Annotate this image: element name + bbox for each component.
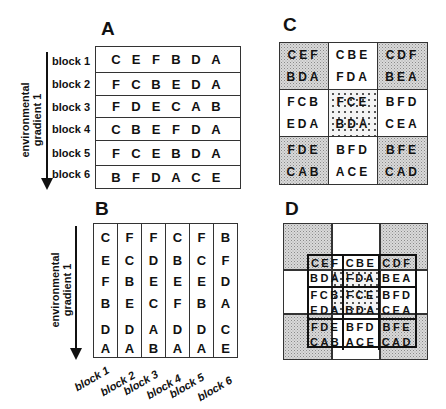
panel-d-cell: FCB EDA <box>309 288 344 320</box>
panel-c-cell: CBE FDA <box>329 43 378 90</box>
plot-cell: C <box>142 296 165 311</box>
panel-c-cell: BFE CAD <box>378 137 427 184</box>
panel-c-cell: BFD ACE <box>329 137 378 184</box>
panel-b-gradient-arrow-shaft <box>75 226 77 350</box>
panel-d-cell: FDE CAB <box>309 320 344 350</box>
panel-d-cell: BFD ACE <box>344 320 379 350</box>
plot-cell: A <box>166 341 189 356</box>
panel-a-row-label: block 5 <box>40 147 90 159</box>
plot-cell: F <box>118 230 141 245</box>
plot-cell: C <box>190 253 213 268</box>
cell-top-row: BFD <box>382 288 412 303</box>
panel-d-letter: D <box>285 198 299 220</box>
cell-top-row: CBE <box>336 44 370 66</box>
panel-a-letter: A <box>101 18 115 40</box>
panel-c-cell: FCB EDA <box>280 90 329 137</box>
panel-b-column: C E F B D A <box>94 224 118 357</box>
plot-cell: B <box>214 230 237 245</box>
panel-a-row: C E F B D A <box>96 47 240 73</box>
panel-d-cell: BFE CAD <box>380 320 415 350</box>
panel-b-column: B F D A C E <box>214 224 237 357</box>
plot-cell: B <box>146 77 166 92</box>
plot-cell: D <box>190 322 213 337</box>
cell-top-row: FCB <box>287 91 321 113</box>
plot-cell: C <box>106 52 126 67</box>
cell-bottom-row: CAB <box>310 335 341 350</box>
panel-a-row: F C E B D A <box>96 141 240 166</box>
plot-cell: B <box>190 296 213 311</box>
panel-a-row-label: block 6 <box>40 168 90 180</box>
plot-cell: E <box>94 253 117 268</box>
plot-cell: F <box>166 122 186 137</box>
cell-top-row: FCE <box>346 288 376 303</box>
plot-cell: C <box>186 170 206 185</box>
cell-bottom-row: CEA <box>385 113 419 135</box>
plot-cell: E <box>190 274 213 289</box>
panel-d-cell: CEF BDA <box>309 256 344 288</box>
cell-top-row: BFE <box>383 320 413 335</box>
plot-cell: F <box>126 170 146 185</box>
plot-cell: F <box>106 146 126 161</box>
cell-top-row: CEF <box>311 256 341 271</box>
panel-c-cell: CDF BEA <box>378 43 427 90</box>
panel-c-letter: C <box>283 14 297 36</box>
plot-cell: E <box>146 146 166 161</box>
plot-cell: E <box>146 122 166 137</box>
plot-cell: D <box>126 99 146 114</box>
plot-cell: B <box>166 146 186 161</box>
cell-bottom-row: BDA <box>287 66 322 88</box>
panel-d-cell: BFD CEA <box>380 288 415 320</box>
plot-cell: B <box>94 296 117 311</box>
panel-b-layout-table: C E F B D A F C B E D A F D E C A B C B … <box>93 223 238 358</box>
panel-c-cell: BFD CEA <box>378 90 427 137</box>
plot-cell: D <box>94 322 117 337</box>
plot-cell: A <box>206 77 226 92</box>
cell-bottom-row: FDA <box>336 66 370 88</box>
plot-cell: C <box>166 99 186 114</box>
cell-bottom-row: CAD <box>385 161 420 183</box>
panel-c-cell: CEF BDA <box>280 43 329 90</box>
plot-cell: A <box>118 341 141 356</box>
cell-top-row: FCB <box>311 288 341 303</box>
cell-bottom-row: CEA <box>382 303 413 318</box>
cell-top-row: CEF <box>288 44 321 66</box>
plot-cell: E <box>118 296 141 311</box>
cell-top-row: BFD <box>386 91 420 113</box>
plot-cell: D <box>214 274 237 289</box>
cell-top-row: FDE <box>288 139 321 161</box>
panel-a-row: F C B E D A <box>96 73 240 96</box>
panel-a-row: F D E C A B <box>96 96 240 118</box>
cell-top-row: BFD <box>346 320 376 335</box>
panel-b-column: F C E B D A <box>190 224 214 357</box>
plot-cell: D <box>142 253 165 268</box>
panel-c-cell-center: FCE BDA <box>329 90 378 137</box>
plot-cell: C <box>106 122 126 137</box>
plot-cell: D <box>186 52 206 67</box>
gradient-label-line2: gradient 1 <box>61 230 73 350</box>
plot-cell: A <box>190 341 213 356</box>
plot-cell: F <box>106 77 126 92</box>
plot-cell: A <box>206 122 226 137</box>
cell-bottom-row: FDA <box>346 271 376 286</box>
plot-cell: E <box>126 52 146 67</box>
panel-c-grid: CEF BDA CBE FDA CDF BEA FCB EDA FCE BDA … <box>279 42 428 185</box>
panel-b-column: C B E F D A <box>166 224 190 357</box>
cell-top-row: CDF <box>386 44 420 66</box>
plot-cell: B <box>142 341 165 356</box>
panel-d-inner-grid: CEF BDA CBE FDA CDF BEA FCB EDA FCE BDA … <box>307 254 417 348</box>
plot-cell: C <box>166 230 189 245</box>
cell-bottom-row: EDA <box>310 303 341 318</box>
panel-a-layout-table: C E F B D A F C B E D A F D E C A B C B … <box>95 46 241 189</box>
plot-cell: D <box>186 146 206 161</box>
plot-cell: B <box>118 274 141 289</box>
plot-cell: C <box>126 77 146 92</box>
cell-top-row: FDE <box>311 320 341 335</box>
cell-bottom-row: BDA <box>310 271 341 286</box>
cell-bottom-row: BDA <box>336 113 371 135</box>
plot-cell: D <box>166 322 189 337</box>
panel-b-column: F C B E D A <box>118 224 142 357</box>
cell-bottom-row: CAD <box>382 335 413 350</box>
plot-cell: F <box>94 274 117 289</box>
plot-cell: C <box>214 322 237 337</box>
panel-d-cell: CBE FDA <box>344 256 379 288</box>
